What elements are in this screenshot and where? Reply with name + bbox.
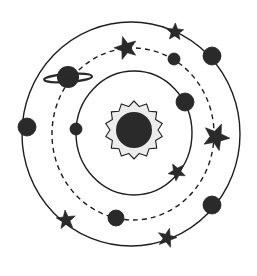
star-inner-bottom-right-icon	[168, 164, 185, 181]
planet-outer-top-right-icon	[203, 47, 221, 65]
star-outer-bottom-icon	[159, 228, 178, 247]
solar-system-diagram	[0, 0, 257, 276]
diagram-canvas	[0, 0, 257, 276]
planet-inner-right-icon	[176, 93, 194, 111]
planet-outer-left-icon	[18, 118, 36, 136]
star-outer-bottom-left-icon	[56, 210, 75, 229]
star-middle-right-icon	[204, 124, 230, 151]
star-outer-top-icon	[167, 23, 184, 40]
star-middle-top-icon	[114, 37, 136, 60]
planet-inner-left-icon	[70, 123, 82, 135]
sun-core-icon	[116, 112, 152, 148]
saturn-planet-icon	[57, 66, 79, 88]
planet-outer-bottom-right-icon	[203, 196, 221, 214]
planet-middle-bottom-icon	[108, 210, 124, 226]
planet-middle-top-icon	[168, 53, 180, 65]
